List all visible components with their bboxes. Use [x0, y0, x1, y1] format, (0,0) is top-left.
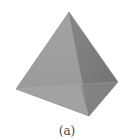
- tetrahedron-front-lower-band: [16, 86, 89, 116]
- figure-caption: (a): [0, 124, 134, 138]
- tetrahedron-figure: [0, 0, 134, 140]
